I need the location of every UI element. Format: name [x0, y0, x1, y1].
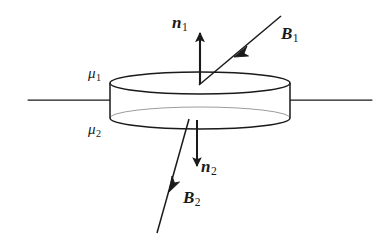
label-mu-2-subscript: 2: [96, 128, 102, 139]
label-mu-2-symbol: μ: [88, 121, 96, 137]
label-b-1: B1: [281, 25, 299, 45]
label-b-1-subscript: 1: [292, 32, 298, 45]
label-mu-1: μ1: [88, 66, 101, 83]
vector-b2-line: [157, 119, 189, 233]
label-mu-1-symbol: μ: [88, 65, 96, 81]
label-mu-2: μ2: [88, 122, 101, 139]
vector-b2-arrowhead: [169, 176, 180, 192]
label-b-2-subscript: 2: [194, 196, 200, 209]
diagram-canvas: [0, 0, 383, 246]
label-n-1: n1: [172, 14, 188, 34]
label-n-2-subscript: 2: [210, 165, 216, 178]
label-b-2-symbol: B: [183, 188, 194, 207]
vector-b1-arrowhead: [234, 46, 249, 57]
label-b-1-symbol: B: [281, 24, 292, 43]
label-mu-1-subscript: 1: [96, 72, 102, 83]
physics-diagram-figure: μ1 μ2 n1 B1 n2 B2: [0, 0, 383, 246]
label-b-2: B2: [183, 189, 201, 209]
label-n-2: n2: [201, 158, 217, 178]
label-n-1-subscript: 1: [181, 21, 187, 34]
